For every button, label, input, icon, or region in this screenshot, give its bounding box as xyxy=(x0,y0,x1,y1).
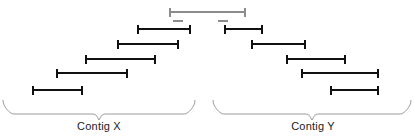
contig-assembly-diagram: Contig XContig Y xyxy=(0,0,414,138)
label-contig-y: Contig Y xyxy=(291,120,335,132)
contig-labels-layer: Contig XContig Y xyxy=(0,0,414,138)
label-contig-x: Contig X xyxy=(77,120,121,132)
